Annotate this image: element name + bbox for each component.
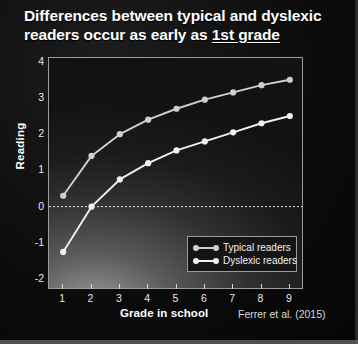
- x-tick-label: 9: [280, 292, 298, 304]
- y-tick-label: 1: [26, 163, 44, 175]
- data-point-marker: [117, 131, 123, 137]
- y-tick-label: -1: [26, 236, 44, 248]
- x-tick-label: 7: [223, 292, 241, 304]
- legend-marker-icon-typical: [193, 243, 219, 252]
- x-axis-tick-labels: 123456789: [48, 292, 303, 308]
- x-tick-mark: [147, 284, 148, 289]
- x-tick-label: 4: [138, 292, 156, 304]
- data-point-marker: [60, 193, 66, 199]
- slide-canvas: Differences between typical and dyslexic…: [0, 0, 358, 344]
- legend-item-typical-readers: Typical readers: [193, 241, 291, 254]
- x-tick-label: 5: [167, 292, 185, 304]
- x-tick-label: 8: [252, 292, 270, 304]
- legend-label-typical: Typical readers: [223, 242, 291, 253]
- legend-label-dyslexic: Dyslexic readers: [223, 255, 297, 266]
- x-axis-label: Grade in school: [120, 307, 208, 319]
- page-title: Differences between typical and dyslexic…: [24, 6, 346, 44]
- x-tick-mark: [91, 284, 92, 289]
- source-citation: Ferrer et al. (2015): [238, 308, 326, 320]
- y-tick-label: 4: [26, 55, 44, 67]
- data-point-marker: [287, 77, 293, 83]
- x-tick-mark: [204, 284, 205, 289]
- data-point-marker: [230, 89, 236, 95]
- x-tick-label: 6: [195, 292, 213, 304]
- data-point-marker: [258, 82, 264, 88]
- x-tick-label: 1: [53, 292, 71, 304]
- data-point-marker: [287, 113, 293, 119]
- title-line-1: Differences between typical and dyslexic: [24, 7, 322, 24]
- title-line-2-prefix: readers occur as early as: [24, 26, 212, 43]
- series-line-typical: [63, 80, 290, 196]
- chart-legend: Typical readers Dyslexic readers: [187, 236, 297, 272]
- x-tick-mark: [176, 284, 177, 289]
- data-point-marker: [145, 117, 151, 123]
- x-tick-mark: [119, 284, 120, 289]
- x-tick-mark: [62, 284, 63, 289]
- legend-marker-icon-dyslexic: [193, 256, 219, 265]
- x-tick-label: 3: [110, 292, 128, 304]
- x-tick-mark: [232, 284, 233, 289]
- y-axis-tick-labels: 43210-1-2: [22, 57, 44, 289]
- y-tick-label: 3: [26, 91, 44, 103]
- title-emphasis-1st-grade: 1st grade: [212, 26, 280, 43]
- legend-item-dyslexic-readers: Dyslexic readers: [193, 254, 291, 267]
- x-tick-mark: [261, 284, 262, 289]
- slide-bottom-edge: [0, 340, 358, 344]
- y-tick-label: -2: [26, 272, 44, 284]
- y-tick-label: 2: [26, 127, 44, 139]
- data-point-marker: [258, 120, 264, 126]
- data-point-marker: [60, 249, 66, 255]
- data-point-marker: [145, 160, 151, 166]
- data-point-marker: [202, 97, 208, 103]
- data-point-marker: [88, 204, 94, 210]
- data-point-marker: [117, 176, 123, 182]
- data-point-marker: [173, 106, 179, 112]
- data-point-marker: [230, 129, 236, 135]
- data-point-marker: [202, 138, 208, 144]
- x-tick-mark: [289, 284, 290, 289]
- series-line-dyslexic: [63, 116, 290, 252]
- data-point-marker: [173, 147, 179, 153]
- y-tick-label: 0: [26, 200, 44, 212]
- x-tick-label: 2: [82, 292, 100, 304]
- data-point-marker: [88, 153, 94, 159]
